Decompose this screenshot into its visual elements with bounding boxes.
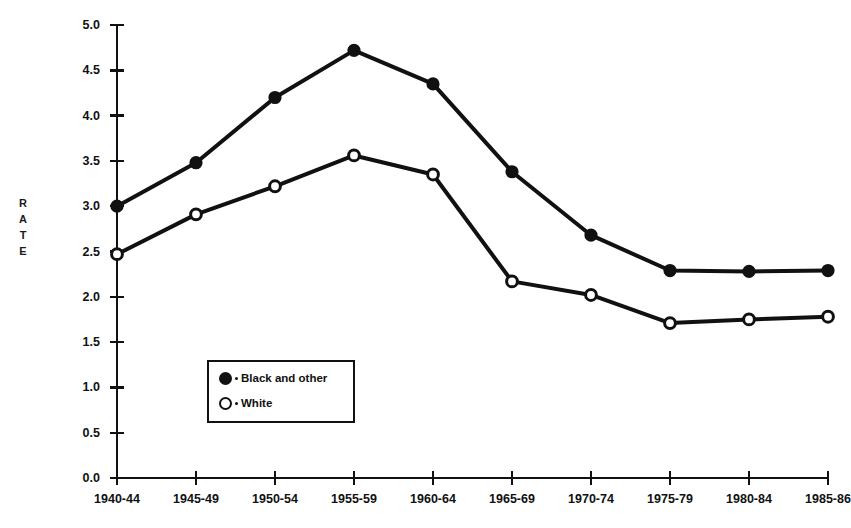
legend: Black and other White xyxy=(207,360,355,423)
data-point-marker xyxy=(585,230,596,241)
series-line-black-and-other xyxy=(117,50,828,271)
data-series-layer xyxy=(111,45,833,329)
data-point-marker xyxy=(664,265,675,276)
data-point-marker xyxy=(270,181,281,192)
data-point-marker xyxy=(348,45,359,56)
open-circle-icon xyxy=(219,397,232,410)
data-point-marker xyxy=(586,290,597,301)
legend-item-black-and-other: Black and other xyxy=(219,368,327,388)
data-point-marker xyxy=(665,318,676,329)
series-line-white xyxy=(117,155,828,323)
data-point-marker xyxy=(112,249,123,260)
data-point-marker xyxy=(507,276,518,287)
data-point-marker xyxy=(111,201,122,212)
data-point-marker xyxy=(822,265,833,276)
data-point-marker xyxy=(190,157,201,168)
legend-dot-icon xyxy=(235,402,238,405)
data-point-marker xyxy=(744,314,755,325)
legend-label-1: White xyxy=(241,397,272,409)
data-point-marker xyxy=(428,169,439,180)
legend-label-0: Black and other xyxy=(241,372,327,384)
data-point-marker xyxy=(743,266,754,277)
data-point-marker xyxy=(506,166,517,177)
plot-area xyxy=(0,0,851,528)
data-point-marker xyxy=(427,78,438,89)
data-point-marker xyxy=(823,311,834,322)
filled-circle-icon xyxy=(219,372,232,385)
data-point-marker xyxy=(349,150,360,161)
legend-dot-icon xyxy=(235,377,238,380)
line-chart: R A T E 0.00.51.01.52.02.53.03.54.04.55.… xyxy=(0,0,851,528)
data-point-marker xyxy=(191,209,202,220)
legend-item-white: White xyxy=(219,393,272,413)
data-point-marker xyxy=(269,92,280,103)
